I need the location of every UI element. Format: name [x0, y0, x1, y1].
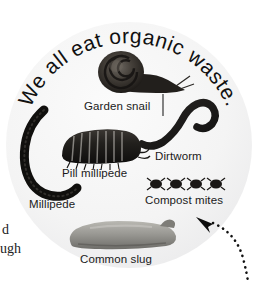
label-pill-millipede: Pill millipede [62, 167, 127, 179]
margin-text-line-1: d [2, 222, 9, 238]
illustration-canvas: We all eat organic waste. [0, 0, 254, 282]
label-garden-snail: Garden snail [84, 100, 150, 112]
label-millipede: Millipede [29, 198, 75, 210]
illustration-svg: We all eat organic waste. [0, 0, 254, 282]
slug-icon [70, 220, 176, 250]
label-common-slug: Common slug [80, 253, 152, 265]
label-compost-mites: Compost mites [145, 194, 223, 206]
margin-text-line-2: ugh [0, 241, 21, 257]
pill-millipede-icon [62, 129, 150, 170]
dotted-arrow-annotation [196, 217, 248, 282]
label-dirtworm: Dirtworm [155, 150, 202, 162]
worm-icon [142, 103, 215, 146]
mites-icon [147, 178, 225, 190]
